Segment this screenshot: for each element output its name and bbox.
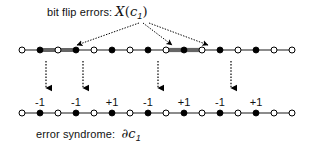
error-chain-node-filled-7	[145, 47, 151, 53]
syndrome-sign-1: -1	[71, 96, 81, 108]
error-chain-node-filled-1	[37, 47, 43, 53]
error-chain-node-filled-3	[73, 47, 79, 53]
error-chain-node-filled-11	[217, 47, 223, 53]
error-chain-node-filled-9	[181, 47, 187, 53]
fan-arrow-left	[77, 23, 139, 45]
syndrome-chain-node-open-4	[91, 110, 97, 116]
syndrome-chain-node-open-2	[55, 110, 61, 116]
syndrome-chain-node-filled-3	[73, 110, 79, 116]
top-chain-group	[19, 47, 295, 53]
figure-canvas: bit flip errors: X(c1) error syndrome: ∂…	[0, 0, 312, 146]
error-chain-node-open-2	[55, 47, 61, 53]
syndrome-sign-3: -1	[143, 96, 153, 108]
error-chain-node-open-10	[199, 47, 205, 53]
syndrome-chain-node-open-14	[271, 110, 277, 116]
error-chain-node-open-4	[91, 47, 97, 53]
syndrome-chain-node-open-6	[127, 110, 133, 116]
syndrome-chain-node-open-12	[235, 110, 241, 116]
syndrome-chain-node-open-10	[199, 110, 205, 116]
syndrome-sign-5: -1	[215, 96, 225, 108]
syndrome-sign-0: -1	[35, 96, 45, 108]
syndrome-sign-4: +1	[178, 96, 191, 108]
syndrome-chain-node-filled-11	[217, 110, 223, 116]
syndrome-chain-node-filled-7	[145, 110, 151, 116]
error-chain-node-open-0	[19, 47, 25, 53]
syndrome-sign-6: +1	[250, 96, 263, 108]
syndrome-chain-node-open-15	[289, 110, 295, 116]
error-chain-node-open-14	[271, 47, 277, 53]
bottom-chain-group	[19, 110, 295, 116]
error-chain-node-filled-13	[253, 47, 259, 53]
syndrome-chain-node-filled-1	[37, 110, 43, 116]
error-chain-node-open-6	[127, 47, 133, 53]
syndrome-chain-node-filled-5	[109, 110, 115, 116]
fan-arrow-right	[149, 23, 208, 45]
syndrome-chain-node-open-0	[19, 110, 25, 116]
error-chain-node-open-8	[163, 47, 169, 53]
syndrome-chain-node-filled-9	[181, 110, 187, 116]
diagram-svg-layer	[0, 0, 312, 146]
syndrome-sign-2: +1	[106, 96, 119, 108]
down-arrow-group	[46, 61, 231, 88]
syndrome-chain-node-filled-13	[253, 110, 259, 116]
error-chain-node-open-15	[289, 47, 295, 53]
syndrome-chain-node-open-8	[163, 110, 169, 116]
error-chain-node-open-12	[235, 47, 241, 53]
error-chain-node-filled-5	[109, 47, 115, 53]
fan-arrow-group	[77, 23, 208, 45]
